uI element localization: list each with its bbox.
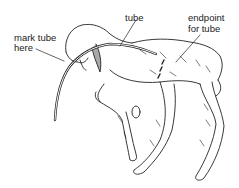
leader-mark bbox=[36, 49, 64, 61]
label-endpoint-line1: endpoint bbox=[188, 13, 224, 23]
lamb-head bbox=[66, 24, 132, 52]
lamb-front-leg bbox=[98, 84, 137, 161]
endpoint-marker bbox=[158, 60, 164, 78]
lamb-belly bbox=[110, 70, 200, 84]
label-endpoint-line2: for tube bbox=[188, 24, 220, 34]
lamb-hind-leg bbox=[196, 82, 224, 180]
label-tube: tube bbox=[125, 13, 144, 23]
lamb-back bbox=[132, 39, 222, 80]
leader-endpoint bbox=[176, 35, 200, 62]
diagram-canvas: tube mark tube here endpoint for tube bbox=[0, 0, 239, 188]
label-mark-tube-line2: here bbox=[14, 43, 33, 53]
